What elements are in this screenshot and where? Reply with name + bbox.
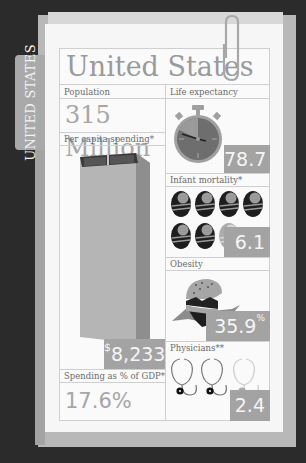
per-capita-value-box: $8,233 [104, 339, 165, 369]
physicians-value: 2.4 [230, 390, 270, 421]
spending-gdp-value: 17.6% [60, 383, 165, 420]
folder-tab-label: UNITED STATES [23, 44, 38, 161]
population-label: Population [60, 85, 165, 99]
life-expectancy-value: 78.7 [224, 145, 270, 173]
per-capita-label: Per capita spending* [60, 132, 165, 146]
spending-gdp-label: Spending as % of GDP* [60, 369, 165, 383]
currency-symbol: $ [104, 341, 111, 354]
column-divider [165, 85, 166, 421]
stopwatch-icon [172, 103, 224, 165]
per-capita-value: 8,233 [111, 343, 165, 365]
money-stack-icon [68, 149, 158, 349]
life-expectancy-label: Life expectancy [166, 85, 270, 99]
infant-mortality-label: Infant mortality* [166, 173, 270, 187]
country-card: United States Population 315 Million Per… [59, 48, 270, 421]
physicians-label: Physicians** [166, 341, 270, 355]
paperclip-icon [220, 14, 244, 82]
population-value: 315 Million [60, 99, 165, 132]
obesity-value-box: 35.9% [206, 311, 270, 341]
obesity-label: Obesity [166, 257, 270, 271]
folder-strip [35, 150, 45, 445]
obesity-unit: % [256, 313, 265, 323]
infant-mortality-value: 6.1 [224, 227, 270, 257]
obesity-value: 35.9 [214, 315, 256, 337]
folder-tab-label-wrap: UNITED STATES [15, 55, 45, 150]
